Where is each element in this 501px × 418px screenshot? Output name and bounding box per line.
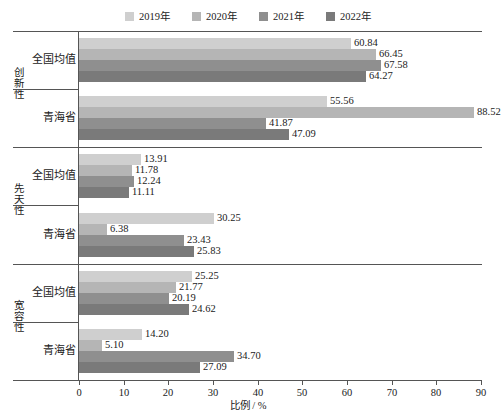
bar-value-label: 5.10 [105, 338, 123, 351]
legend-item-2020: 2020年 [192, 11, 237, 22]
x-axis-tick [79, 381, 80, 385]
bar [79, 271, 192, 282]
category-separator-line [13, 205, 78, 206]
bar [79, 71, 366, 82]
bar-value-label: 41.87 [269, 116, 293, 129]
x-axis-title: 比例 / % [0, 399, 496, 412]
category-axis-label: 全国均值 [14, 286, 76, 299]
group-separator-line [13, 264, 482, 265]
bar-value-label: 30.25 [217, 211, 241, 224]
legend-swatch-2019 [125, 12, 134, 21]
x-axis-tick [213, 381, 214, 385]
bar [79, 129, 289, 140]
x-axis-tick-label: 10 [109, 386, 139, 399]
x-axis-tick [481, 381, 482, 385]
bar [79, 154, 141, 165]
x-axis-tick-label: 40 [243, 386, 273, 399]
category-axis-label: 青海省 [14, 344, 76, 357]
bar-value-label: 11.11 [132, 185, 155, 198]
bar-value-label: 14.20 [145, 327, 169, 340]
group-separator-line [13, 147, 482, 148]
category-separator-line [13, 89, 78, 90]
legend-item-2021: 2021年 [259, 11, 304, 22]
bar-value-label: 34.70 [237, 349, 261, 362]
legend-swatch-2021 [259, 12, 268, 21]
legend-label-2022: 2022年 [340, 11, 371, 22]
category-axis-label: 全国均值 [14, 169, 76, 182]
bar-value-label: 6.38 [110, 222, 128, 235]
x-axis-tick [168, 381, 169, 385]
category-axis-label: 全国均值 [14, 53, 76, 66]
category-axis-label: 青海省 [14, 228, 76, 241]
bar [79, 293, 169, 304]
x-axis-tick-label: 70 [377, 386, 407, 399]
legend-item-2019: 2019年 [125, 11, 170, 22]
x-axis-tick-label: 30 [198, 386, 228, 399]
x-axis-tick [436, 381, 437, 385]
bar [79, 224, 107, 235]
bar [79, 304, 189, 315]
bar [79, 118, 266, 129]
bar [79, 176, 134, 187]
bar-value-label: 64.27 [369, 69, 393, 82]
legend-item-2022: 2022年 [326, 11, 371, 22]
x-axis-tick-label: 90 [466, 386, 496, 399]
x-axis-tick [124, 381, 125, 385]
category-separator-line [13, 322, 78, 323]
x-axis-tick-label: 60 [332, 386, 362, 399]
bar [79, 60, 381, 71]
chart-legend: 2019年 2020年 2021年 2022年 [0, 11, 496, 22]
legend-swatch-2020 [192, 12, 201, 21]
legend-label-2020: 2020年 [206, 11, 237, 22]
category-axis-label: 青海省 [14, 111, 76, 124]
x-axis-tick-label: 80 [421, 386, 451, 399]
bar [79, 165, 132, 176]
bar [79, 213, 214, 224]
x-axis-tick [302, 381, 303, 385]
bar-value-label: 88.52 [477, 105, 501, 118]
x-axis-tick-label: 50 [287, 386, 317, 399]
bar-value-label: 60.84 [354, 36, 378, 49]
group-axis-label: 先天性 [9, 183, 23, 216]
bar [79, 38, 351, 49]
group-axis-label: 创新性 [9, 67, 23, 100]
legend-swatch-2022 [326, 12, 335, 21]
bar [79, 246, 194, 257]
legend-label-2021: 2021年 [273, 11, 304, 22]
x-axis-tick-label: 20 [153, 386, 183, 399]
bar-value-label: 55.56 [330, 94, 354, 107]
x-axis-tick-label: 0 [64, 386, 94, 399]
bar [79, 187, 129, 198]
legend-label-2019: 2019年 [139, 11, 170, 22]
bar-value-label: 24.62 [192, 302, 216, 315]
group-axis-label: 宽容性 [9, 300, 23, 333]
x-axis-tick [392, 381, 393, 385]
bar-value-label: 27.09 [203, 360, 227, 373]
axis-top-border [13, 31, 482, 32]
bar [79, 340, 102, 351]
bar [79, 96, 327, 107]
bar [79, 362, 200, 373]
bar-value-label: 25.83 [197, 244, 221, 257]
bar-value-label: 47.09 [292, 127, 316, 140]
x-axis-tick [258, 381, 259, 385]
x-axis-tick [347, 381, 348, 385]
bar [79, 235, 184, 246]
axis-x-line [13, 380, 482, 381]
bar [79, 282, 176, 293]
bar [79, 49, 376, 60]
